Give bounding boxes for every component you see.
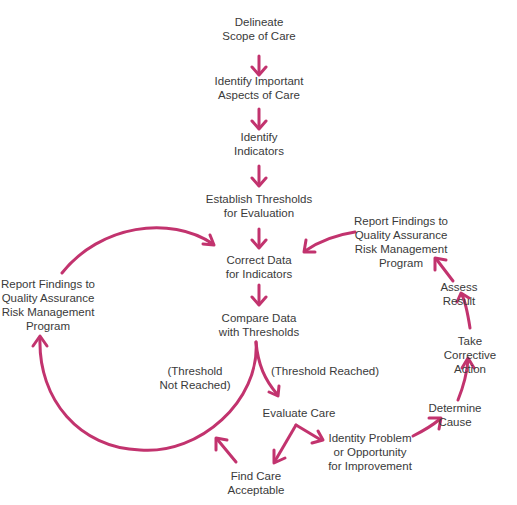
node-delineate-scope: Delineate Scope of Care — [222, 15, 296, 43]
node-determine-cause: Determine Cause — [424, 401, 486, 429]
node-evaluate-care: Evaluate Care — [263, 406, 336, 420]
arrow-curve-icon — [216, 438, 236, 462]
node-report-findings-right: Report Findings to Quality Assurance Ris… — [354, 214, 448, 270]
arrow-down-icon — [252, 109, 266, 129]
node-identify-indicators: Identify Indicators — [234, 130, 284, 158]
label-threshold-not-reached: (Threshold Not Reached) — [160, 364, 231, 392]
node-identify-problem: Identity Problem or Opportunity for Impr… — [328, 431, 412, 473]
arrow-curve-icon — [304, 232, 355, 252]
arrow-down-icon — [252, 229, 266, 248]
arrow-curve-icon — [274, 425, 296, 463]
node-compare-data: Compare Data with Thresholds — [219, 311, 299, 339]
node-assess-result: Assess Result — [430, 280, 488, 308]
node-identify-aspects: Identify Important Aspects of Care — [215, 74, 304, 102]
node-correct-data: Correct Data for Indicators — [226, 253, 292, 281]
label-threshold-reached: (Threshold Reached) — [271, 364, 379, 378]
arrow-down-icon — [252, 285, 266, 305]
arrow-down-icon — [252, 166, 266, 186]
node-take-corrective-action: Take Corrective Action — [444, 334, 496, 376]
arrow-curve-icon — [296, 425, 323, 443]
node-establish-thresholds: Establish Thresholds for Evaluation — [206, 192, 313, 220]
node-find-care-acceptable: Find Care Acceptable — [228, 469, 285, 497]
arrow-curve-icon — [62, 228, 214, 273]
quality-assurance-flow-diagram: Delineate Scope of Care Identify Importa… — [0, 0, 517, 505]
node-report-findings-left: Report Findings to Quality Assurance Ris… — [1, 277, 95, 333]
arrow-down-icon — [252, 56, 266, 75]
arrow-loop-icon — [33, 336, 256, 450]
